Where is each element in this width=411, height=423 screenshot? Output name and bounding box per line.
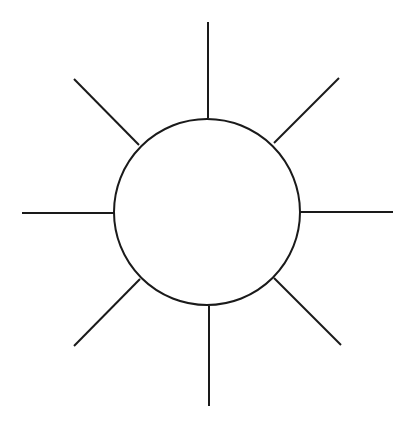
sun-diagram — [0, 0, 411, 423]
ray-top-right — [274, 78, 339, 143]
ray-top-left — [74, 79, 139, 145]
ray-bottom-right — [274, 278, 341, 345]
ray-bottom-left — [74, 279, 140, 346]
sun-circle — [114, 119, 300, 305]
